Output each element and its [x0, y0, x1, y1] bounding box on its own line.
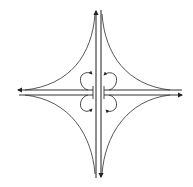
- outer-ramp-bottom-right: [102, 95, 170, 174]
- loop-ramps: [80, 73, 116, 112]
- outer-ramp-bottom-left: [25, 95, 95, 174]
- loop-ramp-bottom-left: [80, 95, 92, 111]
- interchange-svg: [0, 0, 193, 187]
- outer-ramp-top-left: [25, 14, 95, 90]
- loop-ramp-bottom-right: [106, 95, 117, 111]
- outer-ramps: [25, 14, 170, 174]
- vertical-highway: [96, 10, 101, 178]
- outer-ramp-top-right: [102, 14, 170, 90]
- loop-ramp-top-right: [104, 73, 117, 90]
- loop-ramp-top-left: [80, 73, 92, 90]
- cloverleaf-interchange-diagram: [0, 0, 193, 187]
